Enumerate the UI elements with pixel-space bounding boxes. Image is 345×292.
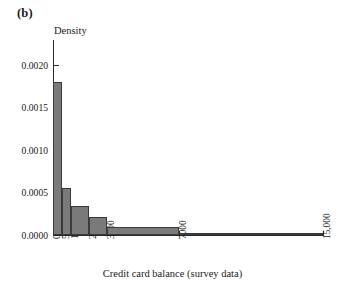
x-tick-label: 7000 (179, 220, 188, 239)
plot-area: 0.00000.00050.00100.00150.0020 050010002… (53, 40, 323, 236)
bin-2000-3000 (89, 217, 107, 235)
bin-500-1000 (62, 188, 71, 235)
panel-label: (b) (17, 6, 33, 21)
y-tick-mark (54, 65, 59, 66)
x-tick-label: 15,000 (323, 213, 332, 239)
bin-1000-2000 (71, 206, 89, 235)
y-tick-label: 0.0005 (22, 186, 48, 199)
histogram-figure: (b) Density 0.00000.00050.00100.00150.00… (0, 0, 345, 292)
x-axis-title: Credit card balance (survey data) (0, 268, 345, 279)
y-axis-title: Density (54, 25, 87, 36)
y-tick-label: 0.0000 (22, 229, 48, 242)
bin-7000-15000 (179, 233, 323, 235)
y-tick-label: 0.0015 (22, 101, 48, 114)
bin-3000-7000 (107, 227, 179, 235)
y-tick-label: 0.0010 (22, 144, 48, 157)
y-tick-label: 0.0020 (22, 59, 48, 72)
bin-0-500 (53, 82, 62, 235)
